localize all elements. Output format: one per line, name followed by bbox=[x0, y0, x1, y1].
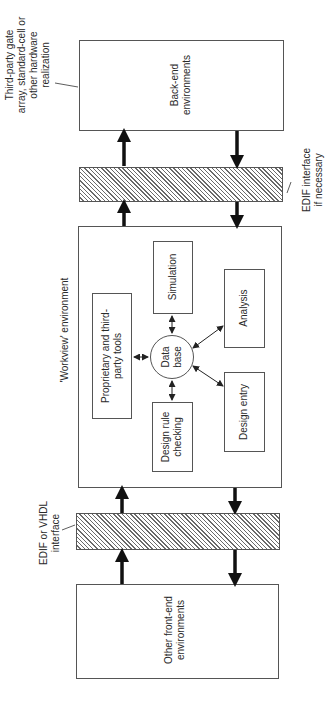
front-end-line1: Other front-end bbox=[163, 596, 175, 664]
edif-interface-upper-label: EDIF interface if necessary bbox=[301, 148, 325, 212]
design-entry-line1: Design entry bbox=[238, 384, 250, 440]
edif-lower-line2: interface bbox=[50, 501, 62, 565]
database-label: Data base bbox=[160, 346, 184, 368]
hardware-realization-annotation: Third-party gate array, standard-cell or… bbox=[4, 17, 52, 114]
leader-hardware bbox=[55, 83, 78, 87]
hardware-line3: other hardware bbox=[28, 17, 40, 114]
analysis-line1: Analysis bbox=[238, 289, 250, 326]
front-end-label: Other front-end environments bbox=[163, 596, 187, 664]
edif-upper-line2: if necessary bbox=[313, 148, 325, 212]
simulation-line1: Simulation bbox=[167, 254, 179, 301]
hardware-line1: Third-party gate bbox=[4, 17, 16, 114]
hardware-line2: array, standard-cell or bbox=[16, 17, 28, 114]
workview-environment-label: 'Workview' environment bbox=[59, 278, 71, 383]
edif-vhdl-interface-label: EDIF or VHDL interface bbox=[38, 501, 62, 565]
proprietary-line1: Proprietary and third- bbox=[100, 309, 112, 403]
edif-lower-line1: EDIF or VHDL bbox=[38, 501, 50, 565]
simulation-label: Simulation bbox=[167, 254, 179, 301]
proprietary-line2: party tools bbox=[112, 309, 124, 403]
workview-label-text: 'Workview' environment bbox=[59, 278, 71, 383]
design-rule-line1: Design rule bbox=[160, 412, 172, 463]
design-rule-checking-label: Design rule checking bbox=[160, 412, 184, 463]
back-end-line2: environments bbox=[181, 55, 193, 115]
back-end-label: Back-end environments bbox=[169, 55, 193, 115]
back-end-line1: Back-end bbox=[169, 55, 181, 115]
edif-interface-upper-bar bbox=[79, 167, 283, 202]
hardware-line4: realization bbox=[40, 17, 52, 114]
database-line2: base bbox=[172, 346, 184, 368]
leader-edif-upper bbox=[287, 182, 291, 193]
edif-vhdl-interface-lower-bar bbox=[76, 513, 280, 550]
analysis-label: Analysis bbox=[238, 289, 250, 326]
design-entry-label: Design entry bbox=[238, 384, 250, 440]
front-end-line2: environments bbox=[175, 596, 187, 664]
proprietary-tools-label: Proprietary and third- party tools bbox=[100, 309, 124, 403]
leader-edif-lower bbox=[62, 525, 75, 530]
edif-upper-line1: EDIF interface bbox=[301, 148, 313, 212]
database-line1: Data bbox=[160, 346, 172, 368]
design-rule-line2: checking bbox=[172, 412, 184, 463]
